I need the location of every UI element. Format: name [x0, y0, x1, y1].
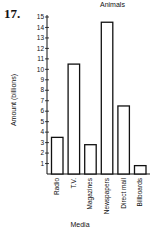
y-tick-label: 2	[40, 149, 44, 156]
x-category-label: Newspapers	[103, 177, 111, 214]
y-tick-label: 15	[37, 13, 45, 20]
bar-t-v-	[68, 64, 80, 174]
bar-radio	[52, 137, 64, 174]
y-tick-label: 3	[40, 139, 44, 146]
y-tick-label: 12	[37, 45, 45, 52]
x-category-label: Direct mail	[120, 177, 127, 208]
y-tick-label: 7	[40, 97, 44, 104]
y-tick-label: 10	[37, 66, 45, 73]
bar-direct-mail	[118, 106, 129, 174]
y-tick-label: 14	[37, 24, 45, 31]
y-tick-label: 13	[37, 34, 45, 41]
y-tick-label: 4	[40, 128, 44, 135]
x-category-label: Billboards	[136, 177, 143, 206]
y-tick-label: 11	[37, 55, 44, 62]
y-tick-label: 8	[40, 86, 44, 93]
bar-billboards	[135, 166, 147, 174]
x-category-label: Radio	[53, 178, 60, 195]
bar-newspapers	[101, 22, 113, 174]
bar-magazines	[85, 145, 97, 174]
bar-chart: 123456789101112131415RadioT.V.MagazinesN…	[0, 0, 161, 232]
y-tick-label: 1	[40, 160, 44, 167]
y-tick-label: 9	[40, 76, 44, 83]
y-tick-label: 5	[40, 118, 44, 125]
x-category-label: T.V.	[70, 178, 77, 189]
y-tick-label: 6	[40, 107, 44, 114]
x-category-label: Magazines	[86, 177, 94, 209]
